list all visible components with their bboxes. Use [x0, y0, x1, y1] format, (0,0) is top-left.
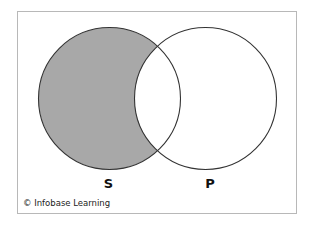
venn-diagram [0, 0, 314, 230]
shaded-region-s-only [39, 28, 181, 170]
set-label-p: P [205, 177, 215, 190]
copyright-credit: © Infobase Learning [23, 199, 110, 208]
set-label-s: S [104, 177, 113, 190]
